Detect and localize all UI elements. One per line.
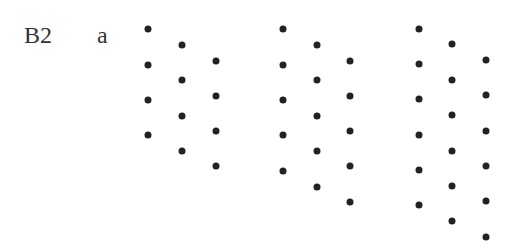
dot	[416, 202, 423, 209]
dot	[483, 92, 490, 99]
dot	[483, 57, 490, 64]
dot	[416, 61, 423, 68]
dot	[416, 132, 423, 139]
dot	[449, 148, 456, 155]
dot	[483, 163, 490, 170]
dot	[449, 183, 456, 190]
dot	[483, 198, 490, 205]
dot	[416, 167, 423, 174]
dot	[483, 128, 490, 135]
dot	[483, 234, 490, 241]
dot	[449, 112, 456, 119]
pattern-3	[0, 0, 527, 248]
dot	[416, 96, 423, 103]
dot	[449, 41, 456, 48]
dot	[416, 26, 423, 33]
dot	[449, 77, 456, 84]
dot	[449, 218, 456, 225]
